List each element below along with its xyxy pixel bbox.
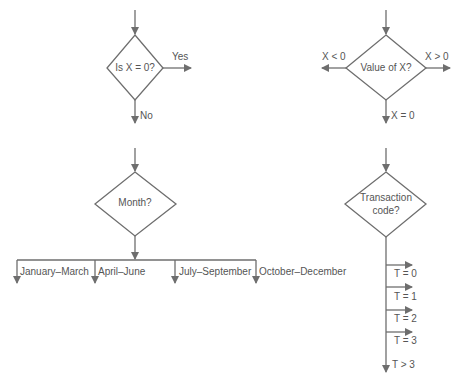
- branch-label-t1: T = 1: [394, 291, 417, 303]
- decision-label: Value of X?: [350, 62, 422, 74]
- decision-label: Is X = 0?: [105, 62, 165, 74]
- branch-label-yes: Yes: [172, 51, 188, 63]
- decision-label-line1: Transaction: [350, 192, 422, 204]
- branch-label-q1: January–March: [20, 266, 89, 278]
- branch-label-no: No: [140, 110, 153, 122]
- decision-label-line2: code?: [350, 205, 422, 217]
- decision-label: Month?: [100, 197, 170, 209]
- flowchart-canvas: [0, 0, 458, 377]
- branch-label-q2: April–June: [98, 266, 145, 278]
- diagram-month: [17, 148, 256, 283]
- branch-label-t3: T = 3: [394, 335, 417, 347]
- branch-label-q4: October–December: [259, 266, 346, 278]
- branch-label-x-less: X < 0: [322, 51, 346, 63]
- branch-label-x-greater: X > 0: [425, 51, 449, 63]
- branch-label-t0: T = 0: [394, 268, 417, 280]
- branch-label-t2: T = 2: [394, 313, 417, 325]
- branch-label-x-equal: X = 0: [391, 110, 415, 122]
- branch-label-q3: July–September: [179, 266, 251, 278]
- branch-label-t-greater: T > 3: [392, 359, 415, 371]
